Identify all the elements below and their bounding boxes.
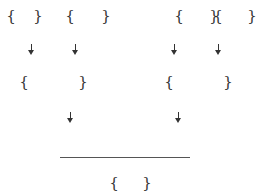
level2-set-1-close-brace: } [78,74,88,90]
level1-set-4-close-brace: } [247,8,257,24]
level1-set-2-open-brace: { [65,8,75,24]
level1-set-3-open-brace: { [174,8,184,24]
level1-set-4-open-brace: { [213,8,223,24]
level1-set-1-open-brace: { [6,8,16,24]
level1-set-1-close-brace: } [33,8,43,24]
level1-set-2-close-brace: } [101,8,111,24]
level2-set-2-close-brace: } [223,74,233,90]
level2-set-1-open-brace: { [19,74,29,90]
level2-set-2-open-brace: { [164,74,174,90]
result-set-open-brace: { [109,175,119,191]
inference-rule-line [60,157,190,158]
result-set-close-brace: } [142,175,152,191]
